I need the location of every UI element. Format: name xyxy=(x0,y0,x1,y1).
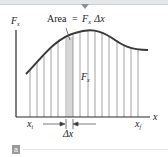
x-initial-label: xi xyxy=(26,118,33,130)
annotation-area-label: Area = Fx Δx xyxy=(47,13,105,26)
force-displacement-diagram: Area = Fx Δx Fx Fx x xi xf Δx xyxy=(0,0,168,157)
x-final-label: xf xyxy=(134,118,142,130)
x-axis-label: x xyxy=(152,111,158,122)
y-axis-label: Fx xyxy=(10,15,20,27)
inner-force-label: Fx xyxy=(80,71,90,83)
divider-line xyxy=(23,149,168,150)
highlighted-strip xyxy=(67,37,73,117)
figure-part-badge: a xyxy=(12,145,20,154)
delta-x-label: Δx xyxy=(62,128,74,139)
